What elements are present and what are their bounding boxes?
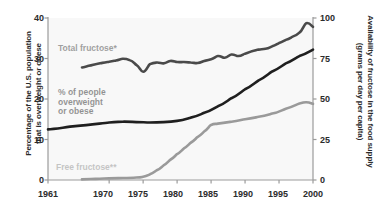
plot-background-fill: [48, 18, 313, 180]
